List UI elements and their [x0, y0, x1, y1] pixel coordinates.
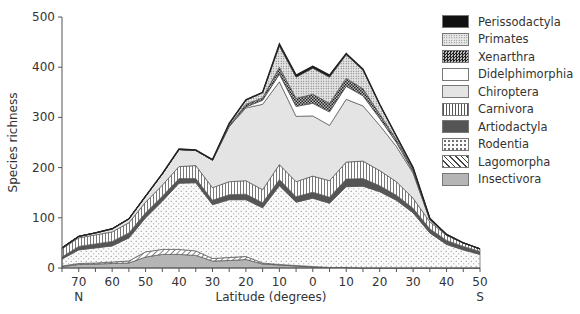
legend-swatch: [442, 33, 469, 46]
legend-swatch: [442, 173, 469, 186]
x-axis-title: Latitude (degrees): [216, 290, 327, 304]
x-tick-label: 30: [205, 275, 220, 289]
south-label: S: [476, 290, 484, 304]
legend-label: Lagomorpha: [478, 155, 550, 169]
x-tick-label: 40: [439, 275, 454, 289]
x-tick-label: 70: [71, 275, 86, 289]
x-tick-label: 10: [272, 275, 287, 289]
legend-item-primates: Primates: [442, 31, 573, 49]
legend-swatch: [442, 120, 469, 133]
legend-item-didelphimorphia: Didelphimorphia: [442, 66, 573, 84]
legend-item-lagomorpha: Lagomorpha: [442, 153, 573, 171]
legend-label: Primates: [478, 32, 528, 46]
x-tick-label: 20: [372, 275, 387, 289]
legend: PerissodactylaPrimatesXenarthraDidelphim…: [442, 13, 573, 188]
x-tick-label: 30: [405, 275, 420, 289]
legend-swatch: [442, 155, 469, 168]
legend-item-insectivora: Insectivora: [442, 171, 573, 189]
legend-swatch: [442, 138, 469, 151]
x-tick-label: 20: [238, 275, 253, 289]
legend-label: Perissodactyla: [478, 15, 561, 29]
legend-swatch: [442, 15, 469, 28]
legend-label: Rodentia: [478, 137, 529, 151]
y-tick-label: 300: [32, 110, 55, 124]
y-tick-label: 500: [32, 10, 55, 24]
legend-item-rodentia: Rodentia: [442, 136, 573, 154]
legend-label: Xenarthra: [478, 50, 535, 64]
x-tick-label: 40: [171, 275, 186, 289]
legend-label: Carnivora: [478, 102, 534, 116]
x-tick-label: 0: [309, 275, 317, 289]
x-tick-label: 60: [105, 275, 120, 289]
legend-item-perissodactyla: Perissodactyla: [442, 13, 573, 31]
x-tick-label: 50: [138, 275, 153, 289]
x-tick-label: 50: [472, 275, 487, 289]
x-tick-label: 10: [339, 275, 354, 289]
legend-swatch: [442, 50, 469, 63]
legend-swatch: [442, 103, 469, 116]
y-tick-label: 0: [47, 261, 55, 275]
legend-swatch: [442, 68, 469, 81]
y-axis-title: Species richness: [6, 93, 20, 193]
legend-label: Insectivora: [478, 172, 541, 186]
legend-item-xenarthra: Xenarthra: [442, 48, 573, 66]
legend-item-artiodactyla: Artiodactyla: [442, 118, 573, 136]
legend-item-carnivora: Carnivora: [442, 101, 573, 119]
y-tick-label: 400: [32, 60, 55, 74]
legend-label: Didelphimorphia: [478, 67, 573, 81]
legend-item-chiroptera: Chiroptera: [442, 83, 573, 101]
y-tick-label: 100: [32, 211, 55, 225]
legend-label: Chiroptera: [478, 85, 539, 99]
north-label: N: [74, 290, 83, 304]
legend-label: Artiodactyla: [478, 120, 548, 134]
area-layers: [62, 44, 480, 268]
legend-swatch: [442, 85, 469, 98]
y-tick-label: 200: [32, 161, 55, 175]
